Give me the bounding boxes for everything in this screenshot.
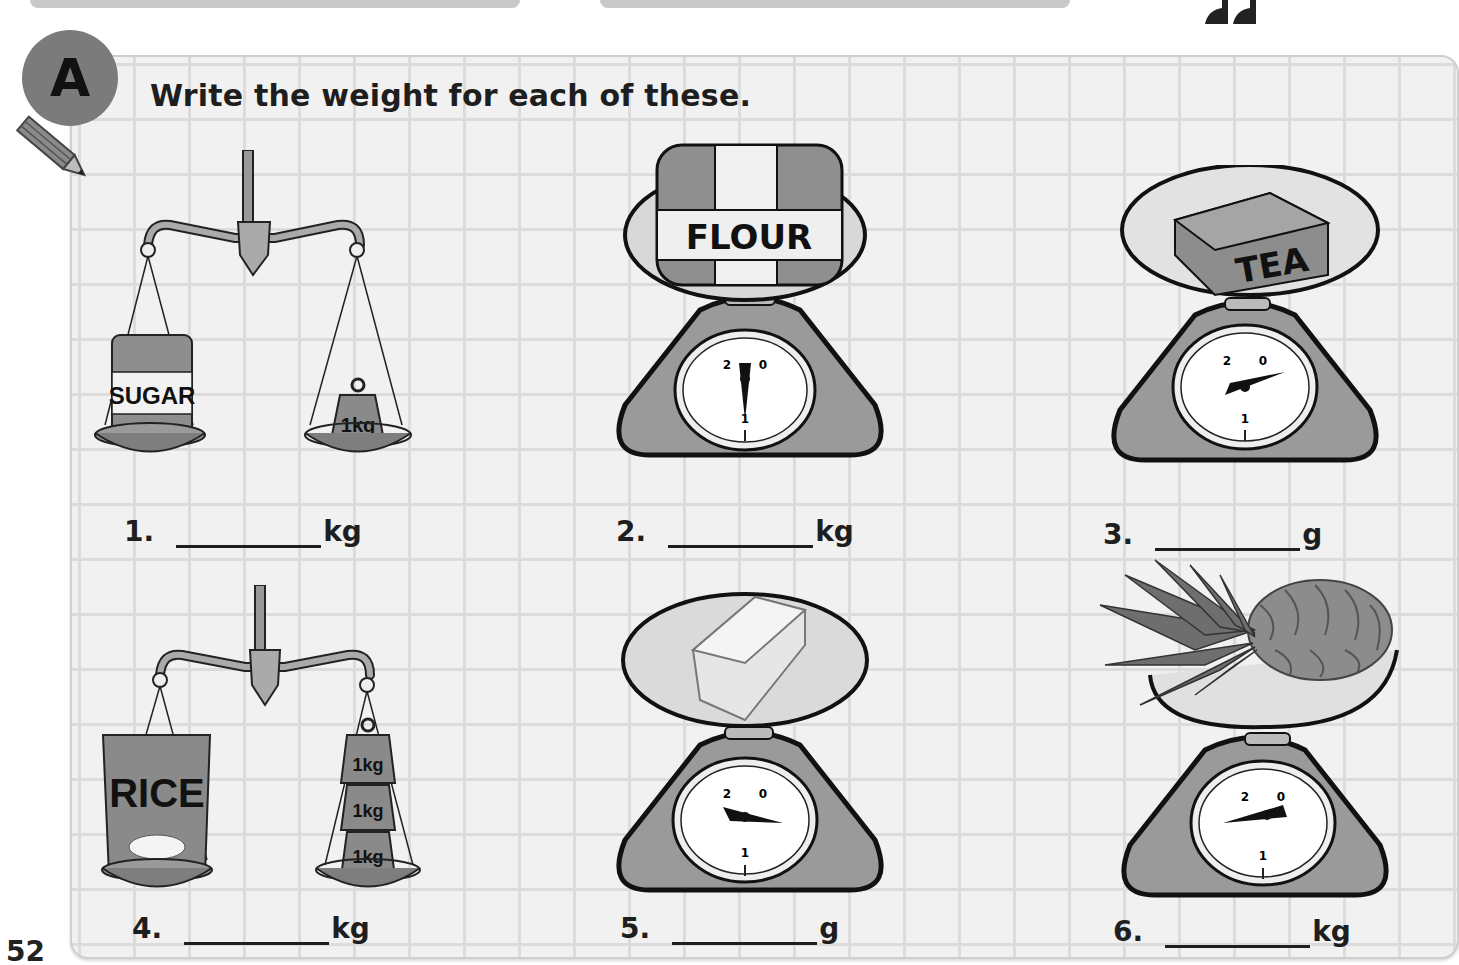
answer-blank-2[interactable] — [668, 521, 813, 548]
item-label-flour: FLOUR — [686, 217, 812, 257]
dial-label-0: 0 — [759, 787, 767, 801]
dial-scale-butter: 2 0 1 — [605, 585, 895, 900]
unit-label: kg — [331, 912, 370, 945]
answer-blank-4[interactable] — [184, 918, 329, 945]
weight-label: 1kg — [352, 847, 383, 867]
dial-label-2: 2 — [723, 358, 731, 372]
unit-label: g — [1302, 518, 1322, 551]
section-badge-letter: A — [50, 48, 90, 108]
header-strip — [600, 0, 1070, 8]
answer-blank-5[interactable] — [672, 918, 817, 945]
page-number: 52 — [6, 935, 45, 965]
answer-blank-3[interactable] — [1155, 524, 1300, 551]
balance-scale-rice: RICE 1kg 1kg 1kg — [95, 585, 425, 895]
quote-mark-icon — [1200, 0, 1260, 24]
answer-row-5: 5. g — [620, 912, 839, 945]
balance-scale-sugar: SUGAR 1kg — [90, 150, 430, 460]
dial-label-1: 1 — [1259, 849, 1267, 863]
unit-label: kg — [323, 515, 362, 548]
weight-label: 1kg — [352, 801, 383, 821]
dial-label-2: 2 — [723, 787, 731, 801]
question-number: 2. — [616, 515, 646, 548]
question-number: 1. — [124, 515, 154, 548]
question-number: 5. — [620, 912, 650, 945]
answer-row-6: 6. kg — [1113, 915, 1351, 948]
item-label-rice: RICE — [109, 771, 205, 815]
unit-label: kg — [1312, 915, 1351, 948]
dial-label-2: 2 — [1241, 790, 1249, 804]
dial-scale-pineapple: 2 0 1 — [1095, 555, 1415, 905]
question-number: 3. — [1103, 518, 1133, 551]
item-label-sugar: SUGAR — [109, 382, 196, 409]
question-number: 4. — [132, 912, 162, 945]
answer-row-3: 3. g — [1103, 518, 1322, 551]
weight-label: 1kg — [352, 755, 383, 775]
dial-scale-flour: 2 0 1 FLOUR — [605, 125, 895, 470]
dial-label-1: 1 — [1241, 412, 1249, 426]
answer-row-4: 4. kg — [132, 912, 370, 945]
unit-label: kg — [815, 515, 854, 548]
unit-label: g — [819, 912, 839, 945]
header-strip — [30, 0, 520, 8]
pencil-icon — [8, 110, 98, 190]
dial-label-0: 0 — [1259, 354, 1267, 368]
answer-row-1: 1. kg — [124, 515, 362, 548]
dial-label-0: 0 — [759, 358, 767, 372]
dial-label-2: 2 — [1223, 354, 1231, 368]
answer-row-2: 2. kg — [616, 515, 854, 548]
instruction-text: Write the weight for each of these. — [150, 78, 751, 113]
dial-scale-tea: 2 0 1 TEA — [1100, 165, 1400, 465]
question-number: 6. — [1113, 915, 1143, 948]
dial-label-0: 0 — [1277, 790, 1285, 804]
weight-label: 1kg — [341, 414, 375, 436]
answer-blank-1[interactable] — [176, 521, 321, 548]
answer-blank-6[interactable] — [1165, 921, 1310, 948]
dial-label-1: 1 — [741, 846, 749, 860]
